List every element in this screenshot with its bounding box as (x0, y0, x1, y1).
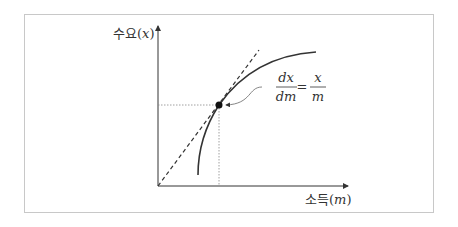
demand-income-diagram: 수요(x) 소득(m) dx dm = x m (0, 0, 458, 227)
svg-text:dm: dm (276, 89, 297, 104)
y-axis-label: 수요(x) (113, 26, 155, 41)
ray-from-origin (158, 50, 259, 186)
svg-text:=: = (297, 79, 308, 94)
tangent-point (216, 102, 223, 109)
elasticity-equation: dx dm = x m (276, 70, 326, 104)
svg-text:m: m (312, 89, 324, 104)
engel-curve (198, 52, 316, 175)
svg-text:dx: dx (278, 70, 294, 85)
x-axis-label: 소득(m) (305, 192, 351, 207)
svg-text:x: x (314, 70, 322, 85)
